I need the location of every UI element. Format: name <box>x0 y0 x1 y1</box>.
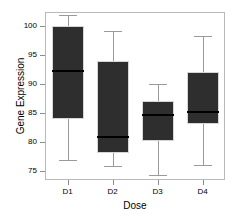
y-axis-title: Gene Expression <box>14 12 28 180</box>
y-tick-label: 85 <box>13 109 37 117</box>
x-axis-title: Dose <box>45 200 225 211</box>
y-tick-label: 80 <box>13 138 37 146</box>
x-tick-label-d3: D3 <box>138 187 178 196</box>
y-tick-label: 90 <box>13 80 37 88</box>
x-tick-mark <box>68 180 69 185</box>
whisker-cap-upper <box>194 36 212 37</box>
box-d4 <box>45 12 225 180</box>
x-tick-mark <box>158 180 159 185</box>
x-tick-label-d1: D1 <box>48 187 88 196</box>
x-tick-label-d4: D4 <box>183 187 223 196</box>
y-tick-label: 95 <box>13 51 37 59</box>
x-tick-mark <box>203 180 204 185</box>
whisker-cap-lower <box>194 165 212 166</box>
plot-area <box>45 12 225 180</box>
box-iqr-rect <box>187 72 219 124</box>
boxplot-figure: Gene Expression 7580859095100 D1D2D3D4 D… <box>0 0 235 220</box>
whisker-upper <box>203 36 204 71</box>
x-tick-label-d2: D2 <box>93 187 133 196</box>
y-tick-label: 75 <box>13 167 37 175</box>
whisker-lower <box>203 124 204 165</box>
y-tick-label: 100 <box>13 22 37 30</box>
x-tick-mark <box>113 180 114 185</box>
median-line <box>187 111 219 113</box>
